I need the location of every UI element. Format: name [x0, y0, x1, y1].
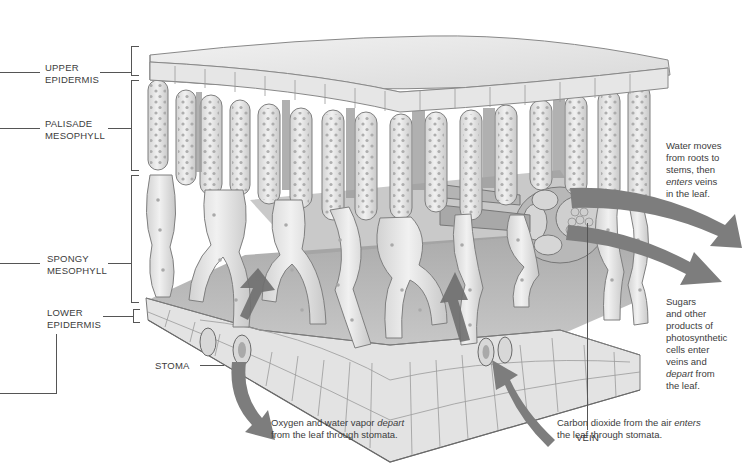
leader-line — [0, 72, 40, 73]
note-emphasis: enters — [674, 417, 700, 428]
label-line: MESOPHYLL — [45, 130, 105, 142]
note-line: Sugars — [666, 296, 727, 308]
bracket-tick — [131, 46, 139, 47]
leaf-cross-section-illustration — [0, 0, 752, 467]
palisade-bracket — [131, 80, 132, 171]
note-text: Oxygen and water vapor — [271, 417, 377, 428]
note-line: from the leaf through stomata. — [271, 429, 404, 441]
label-line: EPIDERMIS — [45, 74, 99, 86]
leader-line — [103, 316, 133, 317]
note-text: from — [693, 368, 715, 379]
note-line: Carbon dioxide from the air enters — [557, 417, 701, 429]
note-line: and other — [666, 308, 727, 320]
note-line: Water moves — [666, 140, 722, 152]
annotation-water: Water moves from roots to stems, then en… — [666, 140, 722, 200]
leader-line — [56, 334, 57, 394]
note-line: stems, then — [666, 164, 722, 176]
leader-line — [0, 393, 57, 394]
note-line: cells enter — [666, 344, 727, 356]
bracket-tick — [131, 80, 139, 81]
annotation-oxygen: Oxygen and water vapor depart from the l… — [271, 417, 404, 441]
bracket-tick — [131, 75, 139, 76]
label-line: EPIDERMIS — [47, 319, 101, 331]
note-line: the leaf. — [666, 380, 727, 392]
leader-line — [0, 128, 40, 129]
note-line: the leaf through stomata. — [557, 429, 701, 441]
leader-line — [108, 128, 131, 129]
label-line: UPPER — [45, 62, 99, 74]
note-text: veins — [692, 176, 717, 187]
annotation-sugars: Sugars and other products of photosynthe… — [666, 296, 727, 392]
spongy-bracket — [131, 175, 132, 303]
label-spongy-mesophyll: SPONGY MESOPHYLL — [47, 253, 107, 276]
leader-line — [0, 263, 40, 264]
vein-leader — [587, 223, 588, 430]
note-line: photosynthetic — [666, 332, 727, 344]
label-line: MESOPHYLL — [47, 265, 107, 277]
bracket-tick — [131, 302, 139, 303]
label-line: LOWER — [47, 307, 101, 319]
note-text: Carbon dioxide from the air — [557, 417, 674, 428]
note-line: in the leaf. — [666, 188, 722, 200]
label-line: SPONGY — [47, 253, 107, 265]
label-palisade-mesophyll: PALISADE MESOPHYLL — [45, 118, 105, 141]
bracket-tick — [133, 309, 140, 310]
bracket-tick — [131, 175, 139, 176]
upper-epidermis-slab — [150, 36, 670, 112]
lower-epidermis-bracket — [133, 309, 134, 322]
upper-epidermis-bracket — [131, 46, 132, 76]
note-line: products of — [666, 320, 727, 332]
leader-line — [108, 263, 131, 264]
leader-line — [100, 72, 131, 73]
note-emphasis: enters — [666, 176, 692, 187]
label-stoma: STOMA — [155, 360, 190, 372]
annotation-carbon: Carbon dioxide from the air enters the l… — [557, 417, 701, 441]
note-emphasis: depart — [666, 368, 693, 379]
note-line: veins and — [666, 356, 727, 368]
note-emphasis: depart — [377, 417, 404, 428]
note-line: enters veins — [666, 176, 722, 188]
stoma-leader — [200, 365, 224, 366]
label-line: PALISADE — [45, 118, 105, 130]
bracket-tick — [131, 170, 139, 171]
note-line: depart from — [666, 368, 727, 380]
note-line: Oxygen and water vapor depart — [271, 417, 404, 429]
label-upper-epidermis: UPPER EPIDERMIS — [45, 62, 99, 85]
bracket-tick — [133, 322, 140, 323]
label-lower-epidermis: LOWER EPIDERMIS — [47, 307, 101, 330]
note-line: from roots to — [666, 152, 722, 164]
